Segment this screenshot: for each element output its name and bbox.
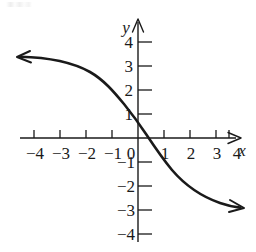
x-label-neg3: −3: [52, 144, 70, 163]
x-label-neg4: −4: [26, 144, 45, 163]
y-label-neg1: −1: [117, 153, 135, 172]
x-tick-marks: [34, 130, 229, 138]
x-label-2: 2: [187, 144, 196, 163]
y-axis-label: y: [120, 18, 130, 37]
y-label-3: 3: [125, 57, 134, 76]
x-label-neg2: −2: [78, 144, 96, 163]
x-label-3: 3: [213, 144, 222, 163]
y-label-neg2: −2: [117, 177, 135, 196]
x-axis-label: x: [237, 141, 246, 160]
graph-figure: −4 −3 −2 −1 0 1 2 3 4 4 3 2 1 −1 −2 −3 −…: [0, 0, 256, 252]
coordinate-plane-svg: −4 −3 −2 −1 0 1 2 3 4 4 3 2 1 −1 −2 −3 −…: [0, 0, 256, 252]
y-label-neg3: −3: [117, 201, 135, 220]
y-label-2: 2: [125, 81, 134, 100]
y-label-neg4: −4: [117, 225, 136, 244]
